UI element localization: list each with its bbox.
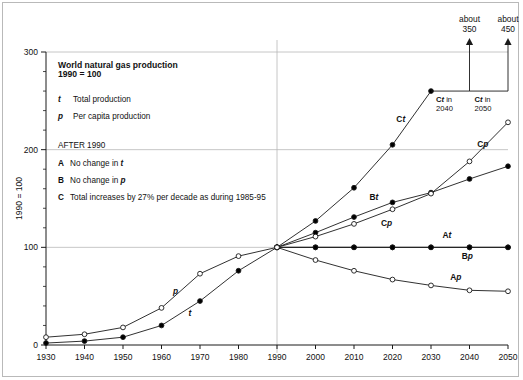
datapoint-Cp-2000 (313, 234, 318, 239)
x-tick-label-2030: 2030 (422, 352, 441, 362)
datapoint-Bt-2040 (467, 177, 472, 182)
curve-label-Ct: Ct (396, 114, 406, 124)
legend-label-t: Total production (73, 95, 131, 104)
datapoint-Ap-2030 (429, 283, 434, 288)
chart-root: 0100200300193019401950196019701980199020… (0, 0, 523, 380)
y-tick-label-200: 200 (24, 145, 38, 155)
datapoint-Bp-2010 (352, 245, 357, 250)
datapoint-Ap-2020 (390, 277, 395, 282)
annotation-value-line2-ct-2050: 450 (501, 24, 515, 34)
annotation-caption-line1-ct-2040: Ct in (436, 95, 452, 104)
series-line-t (46, 247, 277, 343)
datapoint-Bp-2000 (313, 245, 318, 250)
datapoint-Bp-2020 (390, 245, 395, 250)
datapoint-Bp-2030 (429, 245, 434, 250)
datapoint-Bt-2050 (506, 164, 511, 169)
datapoint-Ap-2050 (506, 289, 511, 294)
datapoint-Ap-2000 (313, 258, 318, 263)
x-tick-label-1980: 1980 (229, 352, 248, 362)
scenario-key-A: A (58, 159, 64, 168)
scenario-label-B: No change in p (70, 176, 126, 185)
annotation-caption-line2-ct-2050: 2050 (475, 104, 492, 113)
datapoint-p-1940 (82, 332, 87, 337)
x-tick-label-2000: 2000 (306, 352, 325, 362)
datapoint-Ap-2010 (352, 268, 357, 273)
scenario-key-C: C (58, 193, 64, 202)
annotation-ct-2050: about450Ct in2050 (470, 14, 520, 113)
datapoint-p-1960 (159, 305, 164, 310)
x-tick-label-1960: 1960 (152, 352, 171, 362)
x-tick-label-2020: 2020 (383, 352, 402, 362)
curve-label-Cp: Cp (477, 139, 488, 149)
curve-label-At: At (443, 230, 453, 240)
datapoint-Cp-2040 (467, 159, 472, 164)
x-tick-label-1930: 1930 (37, 352, 56, 362)
datapoint-Bt-2010 (352, 215, 357, 220)
legend-symbol-p: p (57, 112, 63, 121)
series-line-Ap (277, 247, 508, 291)
line-chart: 0100200300193019401950196019701980199020… (0, 0, 523, 380)
datapoint-p-1980 (236, 254, 241, 259)
datapoint-p-1930 (44, 335, 49, 340)
datapoint-t-1960 (159, 323, 164, 328)
annotation-value-line2-ct-2040: 350 (463, 24, 477, 34)
series-t (44, 245, 280, 346)
datapoint-p-1950 (121, 325, 126, 330)
y-tick-label-100: 100 (24, 242, 38, 252)
annotation-value-line1-ct-2040: about (459, 14, 481, 24)
scenario-heading: AFTER 1990 (58, 141, 106, 150)
scenario-label-C: Total increases by 27% per decade as dur… (70, 193, 266, 202)
datapoint-Cp-1990 (275, 245, 280, 250)
x-tick-label-1950: 1950 (114, 352, 133, 362)
datapoint-Cp-2050 (506, 120, 511, 125)
curve-label-Bt: Bt (369, 192, 379, 202)
x-tick-label-2050: 2050 (499, 352, 518, 362)
annotation-value-line1-ct-2050: about (498, 14, 520, 24)
datapoint-t-1970 (198, 299, 203, 304)
datapoint-Ct-2010 (352, 185, 357, 190)
annotation-arrow-icon-ct-2050 (504, 38, 511, 45)
x-tick-label-1990: 1990 (268, 352, 287, 362)
annotation-caption-line2-ct-2040: 2040 (436, 104, 453, 113)
x-tick-label-2040: 2040 (460, 352, 479, 362)
series-Ap (275, 245, 511, 294)
series-Bp (275, 245, 511, 250)
chart-subtitle: 1990 = 100 (58, 69, 101, 79)
curve-label-Cp2: Cp (381, 218, 392, 228)
datapoint-Cp-2010 (352, 221, 357, 226)
annotation-caption-line1-ct-2050: Ct in (475, 95, 491, 104)
legend-label-p: Per capita production (73, 112, 151, 121)
datapoint-Ap-2040 (467, 288, 472, 293)
datapoint-Ct-2020 (390, 142, 395, 147)
x-tick-label-2010: 2010 (345, 352, 364, 362)
curve-label-t: t (188, 308, 192, 318)
x-tick-label-1940: 1940 (75, 352, 94, 362)
curve-label-p: p (172, 286, 178, 296)
y-tick-label-0: 0 (33, 340, 38, 350)
x-tick-label-1970: 1970 (191, 352, 210, 362)
datapoint-t-1940 (82, 339, 87, 344)
datapoint-t-1980 (236, 268, 241, 273)
datapoint-p-1970 (198, 271, 203, 276)
series-line-Cp (277, 122, 508, 247)
datapoint-Bt-2020 (390, 200, 395, 205)
annotation-arrow-icon-ct-2040 (466, 38, 473, 45)
datapoint-Cp-2030 (429, 191, 434, 196)
datapoint-Bp-2050 (506, 245, 511, 250)
datapoint-Bp-2040 (467, 245, 472, 250)
annotation-ct-2040: about350Ct in2040 (431, 14, 481, 113)
datapoint-t-1950 (121, 335, 126, 340)
scenario-key-B: B (58, 176, 64, 185)
series-Cp (275, 120, 511, 250)
legend-symbol-t: t (58, 95, 61, 104)
datapoint-Cp-2020 (390, 207, 395, 212)
curve-label-Ap: Ap (450, 272, 461, 282)
curve-label-Bp: Bp (462, 251, 473, 261)
y-axis-title: 1990 = 100 (14, 177, 24, 220)
datapoint-t-1930 (44, 341, 49, 346)
scenario-label-A: No change in t (70, 159, 124, 168)
y-tick-label-300: 300 (24, 47, 38, 57)
datapoint-Ct-2000 (313, 219, 318, 224)
